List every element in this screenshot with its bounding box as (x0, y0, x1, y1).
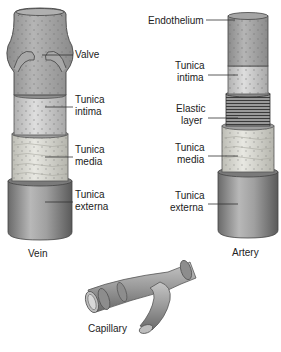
vein-tunica-externa (8, 176, 72, 240)
vein-label-tunica-media-1: Tunica (75, 144, 105, 155)
artery-tunica-media (222, 122, 274, 172)
artery-label-elastic-layer-1: Elastic (176, 103, 205, 114)
vein-label-tunica-media-2: media (75, 156, 103, 167)
vein-label-tunica-intima-2: intima (75, 106, 102, 117)
vein-endothelium (7, 8, 73, 95)
blood-vessel-diagram: Valve Tunica intima Tunica media Tunica … (0, 0, 281, 352)
artery-label-tunica-externa-1: Tunica (175, 190, 205, 201)
vein-caption: Vein (28, 248, 47, 259)
artery-elastic-layer (226, 91, 270, 126)
vein: Valve Tunica intima Tunica media Tunica … (7, 8, 109, 259)
artery-label-elastic-layer-2: layer (181, 115, 203, 126)
vein-label-tunica-intima-1: Tunica (75, 94, 105, 105)
artery-tunica-externa (218, 167, 278, 238)
artery-label-tunica-media-1: Tunica (175, 142, 205, 153)
vein-label-tunica-externa-2: externa (75, 201, 109, 212)
artery-label-tunica-media-2: media (177, 154, 205, 165)
vein-tunica-media (12, 130, 68, 181)
capillary-caption: Capillary (88, 323, 127, 334)
artery-label-tunica-intima-2: intima (177, 72, 204, 83)
capillary: Capillary (83, 259, 196, 335)
artery-label-tunica-intima-1: Tunica (175, 60, 205, 71)
vein-label-tunica-externa-1: Tunica (75, 189, 105, 200)
vein-tunica-intima (14, 92, 66, 136)
artery: Endothelium Tunica intima Elastic layer … (148, 13, 278, 259)
artery-label-endothelium: Endothelium (148, 15, 204, 26)
artery-label-tunica-externa-2: externa (170, 202, 204, 213)
artery-caption: Artery (232, 247, 259, 258)
vein-label-valve: Valve (75, 49, 100, 60)
artery-tunica-intima (228, 66, 268, 94)
artery-endothelium (228, 13, 268, 67)
